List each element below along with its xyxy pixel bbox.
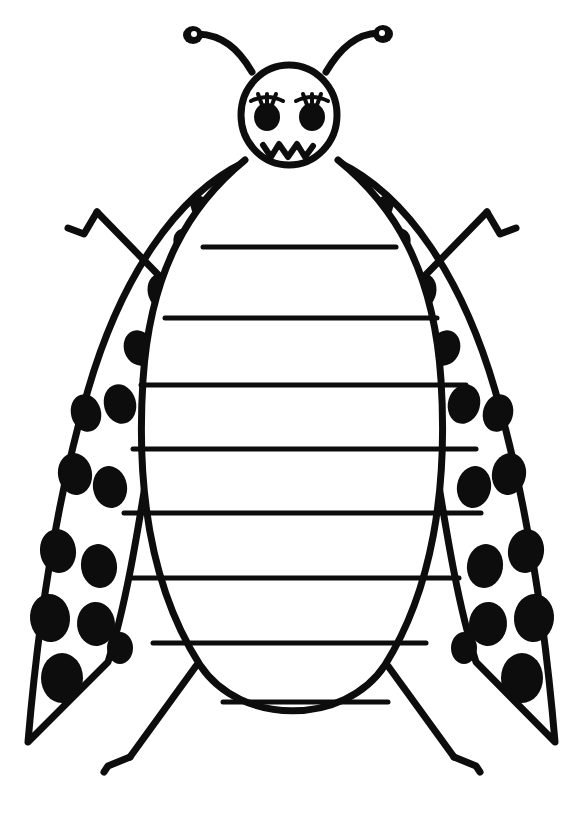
body-fill: [141, 160, 442, 711]
ladybug-drawing: [0, 0, 584, 818]
body: [141, 160, 442, 711]
right-eye: [299, 103, 325, 131]
right-antenna-knob-highlight: [379, 30, 385, 36]
right-wing-spot-13: [501, 653, 543, 703]
left-wing-spot-13: [41, 653, 83, 703]
page-canvas: [0, 0, 584, 818]
left-wing-spot-14: [107, 632, 133, 664]
left-antenna-knob-highlight: [191, 31, 197, 37]
left-eye: [254, 103, 280, 131]
right-wing-spot-14: [451, 632, 477, 664]
